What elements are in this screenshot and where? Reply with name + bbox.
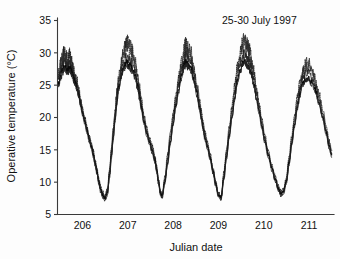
y-axis-tick-labels: 5101520253035 [39, 14, 51, 220]
x-tick-label: 211 [301, 219, 318, 231]
y-tick-label: 5 [45, 208, 51, 220]
x-tick-label: 208 [164, 219, 182, 231]
y-tick-label: 30 [39, 47, 51, 59]
x-tick-label: 210 [255, 219, 273, 231]
x-tick-label: 206 [74, 219, 92, 231]
date-range-annotation: 25-30 July 1997 [222, 14, 297, 26]
trace-upper-envelope-dotted [58, 33, 331, 197]
x-axis-tick-labels: 206207208209210211 [74, 219, 318, 231]
y-tick-label: 25 [39, 79, 51, 91]
data-traces [58, 33, 331, 201]
y-tick-label: 10 [39, 176, 51, 188]
x-tick-label: 209 [210, 219, 228, 231]
x-tick-label: 207 [119, 219, 137, 231]
chart-figure: 5101520253035 206207208209210211 Operati… [0, 0, 340, 259]
y-tick-label: 35 [39, 14, 51, 26]
y-axis-title: Operative temperature (°C) [5, 50, 17, 183]
x-axis-title: Julian date [169, 241, 222, 253]
y-tick-label: 15 [39, 144, 51, 156]
y-tick-label: 20 [39, 111, 51, 123]
trace-upper-envelope-dotted-secondary [58, 36, 331, 201]
operative-temperature-line-chart: 5101520253035 206207208209210211 Operati… [0, 0, 340, 259]
